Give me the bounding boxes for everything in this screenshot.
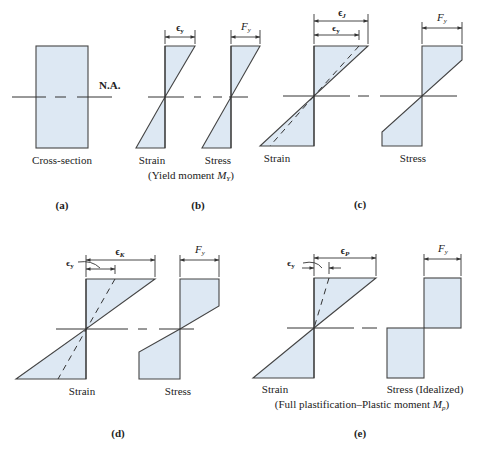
stress-dim-label: Fy: [436, 11, 448, 25]
strain-dim-inner-label: ϵy: [287, 258, 295, 270]
strain-label: Strain: [69, 385, 96, 397]
stress-label: Stress (Idealized): [387, 383, 464, 396]
strain-dim-inner-label: ϵy: [66, 258, 74, 270]
strain-top-triangle: [86, 279, 155, 329]
stress-bottom-triangle: [202, 97, 231, 148]
stress-bottom-shape: [382, 96, 422, 146]
strain-bottom-triangle: [253, 328, 314, 378]
stress-dim-label: Fy: [437, 242, 449, 256]
strain-bottom-triangle: [260, 96, 314, 146]
strain-label: Strain: [262, 383, 289, 395]
strain-bottom-triangle: [16, 329, 86, 379]
stress-top-triangle: [231, 46, 260, 97]
stress-top-block: [424, 278, 461, 328]
strain-label: Strain: [264, 152, 291, 164]
strain-label: Strain: [139, 154, 166, 166]
stress-top-shape: [180, 279, 219, 329]
panel-a: N.A. Cross-section (a): [12, 46, 121, 212]
strain-dim-outer-label: ϵK: [116, 246, 126, 259]
strain-dim-label: ϵy: [176, 22, 184, 35]
panel-c-letter: (c): [354, 198, 367, 211]
strain-dim-outer-label: ϵJ: [338, 7, 346, 20]
stress-strain-diagram: N.A. Cross-section (a) ϵy Strain Fy Stre…: [0, 0, 479, 449]
strain-dim-outer-label: ϵP: [341, 245, 350, 258]
strain-bottom-triangle: [136, 97, 165, 148]
strain-dim-inner-label: ϵy: [332, 23, 340, 35]
stress-bottom-shape: [139, 329, 180, 379]
neutral-axis-label: N.A.: [99, 79, 121, 91]
stress-label: Stress: [205, 154, 231, 166]
panel-a-letter: (a): [56, 199, 69, 212]
panel-d: ϵK ϵy Strain Fy Stress (d): [16, 243, 219, 440]
yield-moment-caption: (Yield moment MY): [148, 169, 234, 183]
stress-dim-label: Fy: [194, 243, 206, 257]
plastic-moment-caption: (Full plastification–Plastic moment Mp): [275, 398, 450, 412]
cross-section-label: Cross-section: [32, 154, 92, 166]
panel-e: ϵP ϵy Strain Fy Stress (Idealized) (Full…: [253, 242, 464, 440]
stress-dim-label: Fy: [240, 20, 252, 34]
panel-d-letter: (d): [111, 427, 125, 440]
panel-e-letter: (e): [354, 427, 367, 440]
panel-b-letter: (b): [191, 199, 205, 212]
panel-b: ϵy Strain Fy Stress (Yield moment MY) (b…: [136, 20, 260, 212]
stress-label: Stress: [400, 152, 426, 164]
stress-bottom-block: [387, 328, 424, 378]
strain-top-triangle: [314, 46, 368, 96]
strain-top-triangle: [165, 46, 195, 97]
panel-c: ϵJ ϵy Strain Fy Stress (c): [260, 7, 462, 211]
strain-top-triangle: [314, 278, 376, 328]
stress-top-shape: [422, 46, 462, 96]
stress-label: Stress: [165, 385, 191, 397]
